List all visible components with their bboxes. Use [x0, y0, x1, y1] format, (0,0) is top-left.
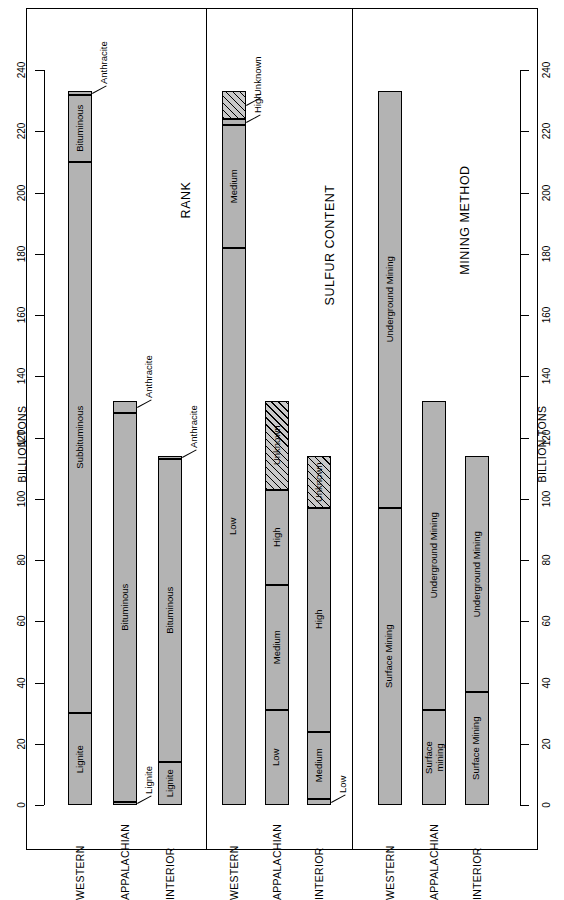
bar-segment-callout-label: Unknown: [253, 57, 263, 97]
bar-segment[interactable]: [307, 456, 331, 508]
panel-divider: [206, 8, 207, 850]
bar-segment[interactable]: [113, 413, 137, 802]
group-label-western: WESTERN: [384, 810, 396, 900]
axis-tick-label: 0: [542, 790, 552, 820]
bar-segment[interactable]: [422, 710, 446, 805]
axis-tick: [520, 560, 529, 561]
axis-tick: [520, 621, 529, 622]
bar-segment[interactable]: [68, 95, 92, 162]
bar-segment[interactable]: [378, 508, 402, 805]
panel-title-sulfur-content: SULFUR CONTENT: [323, 165, 337, 325]
bar-segment-callout-label: High: [253, 94, 263, 114]
group-label-interior: INTERIOR: [471, 810, 483, 900]
bar-segment[interactable]: [307, 508, 331, 732]
bar-segment[interactable]: [265, 401, 289, 490]
bar-segment[interactable]: [113, 401, 137, 413]
bar-segment[interactable]: [465, 456, 489, 692]
panel-title-rank: RANK: [179, 120, 193, 280]
bar-segment-callout-label: Lignite: [144, 766, 154, 794]
axis-tick: [520, 254, 529, 255]
axis-tick: [520, 805, 529, 806]
axis-tick-label: 180: [542, 239, 552, 269]
bar-segment[interactable]: [265, 710, 289, 805]
axis-tick-label: 220: [542, 116, 552, 146]
axis-tick: [520, 193, 529, 194]
bar-segment[interactable]: [158, 459, 182, 762]
axis-tick-label: 240: [542, 55, 552, 85]
bar-segment[interactable]: [422, 401, 446, 710]
axis-tick: [520, 70, 529, 71]
bar-segment[interactable]: [158, 762, 182, 805]
bar-segment-callout-label: Anthracite: [99, 41, 109, 84]
axis-tick-label: 200: [542, 178, 552, 208]
bar-segment[interactable]: [307, 799, 331, 805]
axis-tick-label: 40: [542, 668, 552, 698]
bar-segment[interactable]: [222, 119, 246, 125]
bar-segment-callout-label: Low: [338, 776, 348, 793]
group-label-appalachian: APPALACHIAN: [271, 810, 283, 900]
axis-tick-label: 160: [542, 300, 552, 330]
bar-segment[interactable]: [265, 585, 289, 711]
group-label-interior: INTERIOR: [164, 810, 176, 900]
axis-tick: [520, 315, 529, 316]
bar-segment[interactable]: [265, 490, 289, 585]
group-label-appalachian: APPALACHIAN: [119, 810, 131, 900]
bar-segment[interactable]: [307, 732, 331, 799]
axis-tick: [520, 683, 529, 684]
panel-divider: [352, 8, 353, 850]
group-label-interior: INTERIOR: [313, 810, 325, 900]
axis-tick: [520, 438, 529, 439]
axis-title: BILLION TONS: [536, 399, 548, 489]
axis-tick-label: 60: [542, 606, 552, 636]
axis-tick: [520, 744, 529, 745]
axis-tick: [520, 131, 529, 132]
axis-tick: [520, 376, 529, 377]
bar-segment[interactable]: [68, 91, 92, 94]
axis-tick-label: 20: [542, 729, 552, 759]
bar-segment[interactable]: [378, 91, 402, 508]
bar-segment-callout-label: Anthracite: [144, 355, 154, 398]
axis-line: [44, 70, 45, 805]
panel-title-mining-method: MINING METHOD: [458, 140, 472, 300]
bar-segment[interactable]: [158, 456, 182, 459]
axis-tick-label: 80: [542, 545, 552, 575]
bar-segment[interactable]: [68, 713, 92, 805]
axis-tick-label: 140: [542, 361, 552, 391]
bar-segment[interactable]: [113, 802, 137, 805]
bar-segment[interactable]: [222, 248, 246, 805]
bar-segment[interactable]: [465, 692, 489, 805]
bar-segment[interactable]: [222, 125, 246, 248]
bar-segment-callout-label: Anthracite: [189, 406, 199, 449]
bar-segment[interactable]: [68, 162, 92, 713]
bar-segment[interactable]: [222, 91, 246, 119]
axis-tick: [520, 499, 529, 500]
group-label-western: WESTERN: [74, 810, 86, 900]
group-label-western: WESTERN: [228, 810, 240, 900]
group-label-appalachian: APPALACHIAN: [428, 810, 440, 900]
value-axis-right: 020406080100120140160180200220240BILLION…: [0, 0, 40, 896]
